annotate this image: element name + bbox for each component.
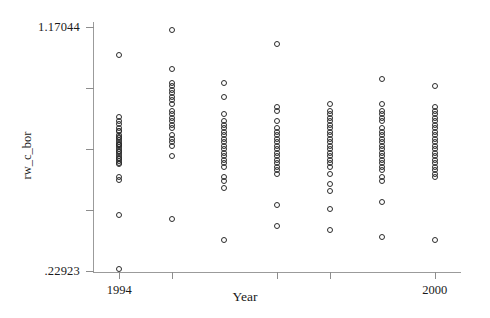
scatter-point — [327, 101, 333, 107]
x-axis-tick-mark — [172, 272, 173, 279]
scatter-point — [327, 181, 333, 187]
scatter-point — [432, 237, 438, 243]
scatter-point — [379, 199, 385, 205]
scatter-point — [327, 227, 333, 233]
scatter-point — [274, 171, 280, 177]
scatter-point — [169, 101, 175, 107]
scatter-point — [169, 66, 175, 72]
scatter-point — [379, 178, 385, 184]
scatter-point — [116, 177, 122, 183]
y-axis-tick-label: 1.17044 — [38, 20, 80, 35]
scatter-point — [221, 111, 227, 117]
x-axis-tick-mark — [435, 272, 436, 279]
scatter-point — [116, 212, 122, 218]
scatter-point — [432, 83, 438, 89]
scatter-point — [274, 118, 280, 124]
y-axis-tick-label: .22923 — [44, 264, 80, 279]
scatter-point — [327, 171, 333, 177]
scatter-point — [327, 188, 333, 194]
scatter-point — [116, 161, 122, 167]
y-axis-title: rw_c_bor — [20, 111, 35, 201]
scatter-point — [169, 153, 175, 159]
scatter-plot-figure: 1.17044.22923 rw_c_bor 19942000 Year — [0, 0, 490, 318]
scatter-point — [379, 167, 385, 173]
scatter-point — [116, 52, 122, 58]
scatter-point — [274, 41, 280, 47]
scatter-point — [169, 27, 175, 33]
scatter-point — [274, 223, 280, 229]
scatter-point — [379, 234, 385, 240]
scatter-point — [169, 143, 175, 149]
scatter-point — [274, 202, 280, 208]
scatter-point — [379, 76, 385, 82]
scatter-point — [327, 164, 333, 170]
scatter-point — [221, 178, 227, 184]
x-axis-tick-mark — [330, 272, 331, 279]
y-axis-line — [93, 22, 94, 272]
x-axis-tick-mark — [119, 272, 120, 279]
y-axis-tick-mark — [86, 88, 94, 89]
y-axis-tick-mark — [86, 210, 94, 211]
x-axis-title: Year — [0, 289, 490, 305]
scatter-point — [221, 237, 227, 243]
y-axis-tick-mark — [86, 27, 94, 28]
scatter-point — [274, 108, 280, 114]
scatter-point — [221, 164, 227, 170]
y-axis-tick-mark — [86, 149, 94, 150]
scatter-point — [432, 174, 438, 180]
scatter-point — [379, 101, 385, 107]
x-axis-tick-mark — [277, 272, 278, 279]
scatter-point — [169, 216, 175, 222]
scatter-point — [169, 125, 175, 131]
scatter-point — [379, 118, 385, 124]
scatter-point — [221, 80, 227, 86]
scatter-point — [221, 94, 227, 100]
scatter-point — [327, 206, 333, 212]
scatter-point — [221, 185, 227, 191]
